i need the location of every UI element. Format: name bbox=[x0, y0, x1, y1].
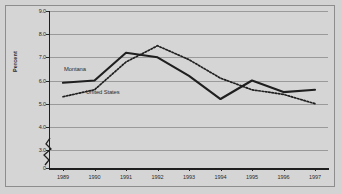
series-label-montana: Montana bbox=[64, 66, 86, 72]
x-axis-tick-mark bbox=[126, 168, 127, 171]
x-axis-tick-label: 1995 bbox=[235, 174, 269, 180]
y-axis-title: Percent bbox=[12, 51, 18, 72]
x-axis-tick-mark bbox=[284, 168, 285, 171]
x-axis-tick-mark bbox=[252, 168, 253, 171]
x-axis-tick-label: 1997 bbox=[298, 174, 332, 180]
x-axis-tick-mark bbox=[221, 168, 222, 171]
x-axis-tick-label: 1994 bbox=[204, 174, 238, 180]
x-axis-tick-mark bbox=[158, 168, 159, 171]
series-label-united-states: United States bbox=[86, 89, 120, 95]
x-axis-tick-mark bbox=[315, 168, 316, 171]
y-axis-tick-label: 8.0 bbox=[22, 31, 46, 37]
x-axis-tick-label: 1991 bbox=[109, 174, 143, 180]
x-axis-tick-mark bbox=[189, 168, 190, 171]
y-axis-tick-label: 5.0 bbox=[22, 101, 46, 107]
x-axis-tick-label: 1996 bbox=[267, 174, 301, 180]
x-axis-tick-mark bbox=[95, 168, 96, 171]
x-axis-tick-label: 1993 bbox=[172, 174, 206, 180]
x-axis-tick-label: 1989 bbox=[46, 174, 80, 180]
y-axis-tick-label: 4.0 bbox=[22, 124, 46, 130]
x-axis-tick-mark bbox=[63, 168, 64, 171]
y-axis-tick-label: 7.0 bbox=[22, 54, 46, 60]
chart-figure: Percent 9.08.07.06.05.04.03.00 198919901… bbox=[0, 0, 342, 194]
y-axis-tick-label: 9.0 bbox=[22, 8, 46, 14]
y-axis-tick-label: 6.0 bbox=[22, 78, 46, 84]
x-axis-tick-label: 1990 bbox=[78, 174, 112, 180]
x-axis-tick-label: 1992 bbox=[141, 174, 175, 180]
